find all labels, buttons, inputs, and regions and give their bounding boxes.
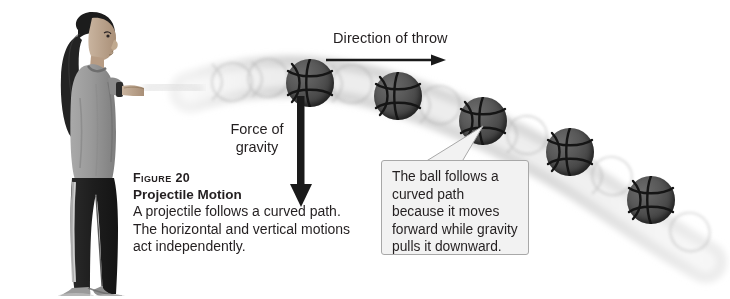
direction-of-throw-label: Direction of throw xyxy=(333,30,448,46)
basketball-5 xyxy=(627,176,675,224)
thrower-photo xyxy=(28,6,144,296)
figure-number: Figure 20 xyxy=(133,170,368,186)
force-of-gravity-label-line2: gravity xyxy=(224,138,290,156)
basketball-2 xyxy=(374,72,422,120)
force-of-gravity-label: Force of gravity xyxy=(224,120,290,156)
callout-box: The ball follows a curved path because i… xyxy=(381,160,529,255)
figure-caption: Figure 20 Projectile Motion A projectile… xyxy=(133,170,368,256)
projectile-motion-figure: Direction of throw Force of gravity Figu… xyxy=(0,0,730,299)
basketball-4 xyxy=(546,128,594,176)
direction-of-throw-arrow xyxy=(325,52,447,68)
figure-description: A projectile follows a curved path. The … xyxy=(133,203,368,256)
figure-title: Projectile Motion xyxy=(133,186,368,203)
basketball-3 xyxy=(459,97,507,145)
force-of-gravity-label-line1: Force of xyxy=(224,120,290,138)
